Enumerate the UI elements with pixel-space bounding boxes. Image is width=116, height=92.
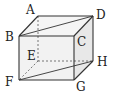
vertex-label-d: D: [96, 8, 106, 22]
vertex-label-c: C: [77, 35, 86, 49]
vertex-label-b: B: [5, 30, 14, 44]
vertex-label-e: E: [27, 49, 36, 63]
vertex-label-a: A: [25, 3, 35, 17]
vertex-label-f: F: [5, 75, 13, 89]
cube-diagram: A B C D E F G H: [0, 0, 116, 92]
vertex-label-g: G: [76, 80, 86, 92]
vertex-label-h: H: [97, 55, 107, 69]
